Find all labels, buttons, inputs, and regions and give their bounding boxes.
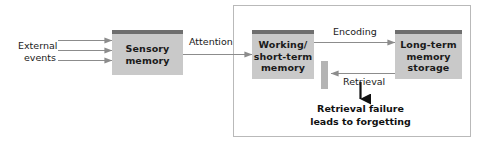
long-term-memory-box: Long-term memory storage	[395, 30, 462, 79]
working-memory-box: Working/ short-term memory	[252, 30, 314, 79]
external-events-label: External events	[18, 40, 56, 64]
external-events-arrows	[58, 41, 112, 61]
encoding-label: Encoding	[333, 26, 377, 38]
attention-label: Attention	[189, 36, 233, 48]
memory-model-diagram: External events Sensory memory Attention…	[0, 0, 487, 151]
sensory-memory-box: Sensory memory	[112, 30, 183, 75]
retrieval-label: Retrieval	[343, 76, 385, 88]
retrieval-blocker-bar	[321, 61, 328, 89]
retrieval-failure-caption: Retrieval failure leads to forgetting	[300, 103, 421, 128]
